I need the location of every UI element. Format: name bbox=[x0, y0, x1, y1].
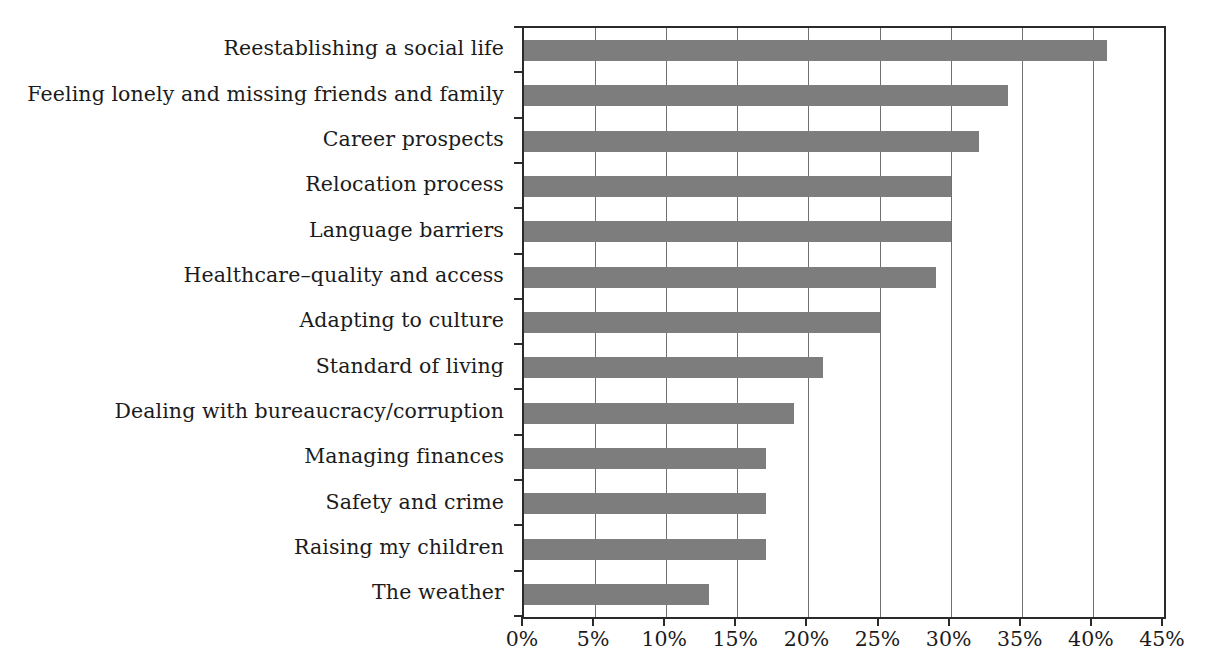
bar-row bbox=[524, 209, 1164, 254]
plot-area bbox=[522, 26, 1166, 619]
bar bbox=[524, 312, 880, 333]
bar-row bbox=[524, 255, 1164, 300]
category-label: Reestablishing a social life bbox=[0, 26, 513, 71]
category-label: Raising my children bbox=[0, 524, 513, 569]
category-label: Language barriers bbox=[0, 207, 513, 252]
x-axis-tick-label: 35% bbox=[997, 628, 1043, 651]
bar-row bbox=[524, 572, 1164, 617]
bar-row bbox=[524, 391, 1164, 436]
category-label: Safety and crime bbox=[0, 479, 513, 524]
x-axis-tick bbox=[1161, 617, 1163, 626]
y-axis-category-labels: Reestablishing a social lifeFeeling lone… bbox=[0, 26, 513, 615]
bar-row bbox=[524, 119, 1164, 164]
horizontal-bar-chart: Reestablishing a social lifeFeeling lone… bbox=[0, 0, 1211, 669]
category-label: Adapting to culture bbox=[0, 298, 513, 343]
x-axis-tick bbox=[1090, 617, 1092, 626]
x-axis-tick bbox=[734, 617, 736, 626]
x-axis-tick-marks bbox=[522, 617, 1162, 627]
x-axis-tick-label: 20% bbox=[784, 628, 830, 651]
x-axis-tick-label: 10% bbox=[641, 628, 687, 651]
x-axis-tick-label: 15% bbox=[713, 628, 759, 651]
category-label: Standard of living bbox=[0, 343, 513, 388]
bar-row bbox=[524, 526, 1164, 571]
bar bbox=[524, 40, 1107, 61]
bar-row bbox=[524, 481, 1164, 526]
bar-series bbox=[524, 28, 1164, 617]
bar bbox=[524, 357, 823, 378]
x-axis-tick bbox=[1019, 617, 1021, 626]
bar-row bbox=[524, 73, 1164, 118]
category-label: The weather bbox=[0, 570, 513, 615]
x-axis-tick-labels: 0%5%10%15%20%25%30%35%40%45% bbox=[522, 628, 1162, 662]
x-axis-tick-label: 5% bbox=[577, 628, 610, 651]
x-axis-tick-label: 30% bbox=[926, 628, 972, 651]
bar bbox=[524, 131, 979, 152]
bar bbox=[524, 403, 794, 424]
category-label: Feeling lonely and missing friends and f… bbox=[0, 71, 513, 116]
bar-row bbox=[524, 164, 1164, 209]
bar bbox=[524, 85, 1008, 106]
category-label: Managing finances bbox=[0, 434, 513, 479]
bar bbox=[524, 448, 766, 469]
bar bbox=[524, 539, 766, 560]
bar bbox=[524, 176, 951, 197]
category-label: Career prospects bbox=[0, 117, 513, 162]
bar bbox=[524, 267, 936, 288]
bar bbox=[524, 584, 709, 605]
x-axis-tick bbox=[521, 617, 523, 626]
x-axis-tick bbox=[592, 617, 594, 626]
x-axis-tick-label: 40% bbox=[1068, 628, 1114, 651]
x-axis-tick-label: 45% bbox=[1139, 628, 1185, 651]
category-label: Relocation process bbox=[0, 162, 513, 207]
bar-row bbox=[524, 28, 1164, 73]
category-label: Healthcare–quality and access bbox=[0, 253, 513, 298]
x-axis-tick bbox=[877, 617, 879, 626]
x-axis-tick bbox=[805, 617, 807, 626]
bar-row bbox=[524, 436, 1164, 481]
x-axis-tick-label: 25% bbox=[855, 628, 901, 651]
category-label: Dealing with bureaucracy/corruption bbox=[0, 389, 513, 434]
x-axis-tick bbox=[663, 617, 665, 626]
x-axis-tick bbox=[948, 617, 950, 626]
bar-row bbox=[524, 345, 1164, 390]
bar bbox=[524, 493, 766, 514]
x-axis-tick-label: 0% bbox=[506, 628, 539, 651]
bar-row bbox=[524, 300, 1164, 345]
bar bbox=[524, 221, 951, 242]
